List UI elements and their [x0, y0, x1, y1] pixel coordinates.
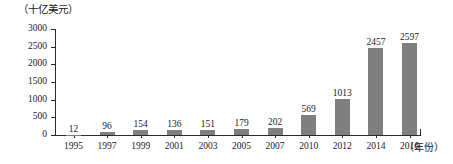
bar-value-label: 2597: [390, 32, 430, 42]
x-axis-tick: [275, 135, 276, 138]
x-axis-tick: [107, 135, 108, 138]
bar: [268, 128, 283, 135]
bar-chart: （十亿美元） 050010001500200025003000 19951997…: [0, 0, 453, 164]
y-axis-tick-label: 3000: [17, 24, 47, 34]
y-axis-tick-label: 2500: [17, 42, 47, 52]
x-axis-tick: [208, 135, 209, 138]
y-axis-unit-label: （十亿美元）: [18, 1, 78, 16]
y-axis-tick: [51, 135, 56, 136]
bar-value-label: 569: [289, 104, 329, 114]
y-axis-tick: [51, 100, 56, 101]
x-axis-tick: [376, 135, 377, 138]
x-axis-tick: [342, 135, 343, 138]
y-axis-tick-label: 1000: [17, 95, 47, 105]
bar-value-label: 1013: [322, 88, 362, 98]
bar-value-label: 202: [255, 117, 295, 127]
bar: [66, 135, 81, 136]
y-axis-tick: [51, 29, 56, 30]
x-axis-tick: [174, 135, 175, 138]
bar: [402, 43, 417, 135]
x-axis-tick: [141, 135, 142, 138]
x-axis-line: [55, 135, 421, 136]
plot-area: 050010001500200025003000 199519971999200…: [55, 29, 421, 135]
x-axis-end-tick: [420, 129, 421, 136]
y-axis-tick: [51, 47, 56, 48]
x-axis-tick: [74, 135, 75, 138]
bar: [167, 130, 182, 135]
bar: [133, 130, 148, 135]
y-axis-tick: [51, 64, 56, 65]
bar: [368, 48, 383, 135]
y-axis-tick-label: 0: [17, 130, 47, 140]
y-axis-tick-label: 2000: [17, 59, 47, 69]
x-axis-tick: [242, 135, 243, 138]
bar: [301, 115, 316, 135]
bar: [234, 129, 249, 135]
x-axis-tick: [309, 135, 310, 138]
bar: [100, 132, 115, 135]
y-axis-tick-label: 500: [17, 112, 47, 122]
bar: [200, 130, 215, 135]
x-axis-tick: [410, 135, 411, 138]
bar: [335, 99, 350, 135]
y-axis-tick-label: 1500: [17, 77, 47, 87]
y-axis-tick: [51, 82, 56, 83]
y-axis-tick: [51, 117, 56, 118]
x-axis-unit-label: （年份）: [404, 139, 444, 154]
